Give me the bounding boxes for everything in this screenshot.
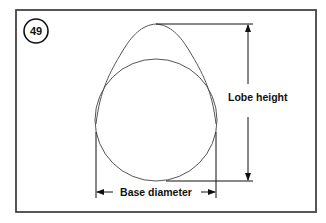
figure-number: 49 (30, 25, 42, 37)
lobe-height-dimension: Lobe height (156, 24, 288, 181)
cam-lobe-diagram: 49 Lobe height Base diameter (0, 0, 326, 223)
base-diameter-label: Base diameter (120, 186, 192, 198)
figure-frame (16, 10, 316, 212)
base-circle (95, 59, 217, 181)
lobe-height-label: Lobe height (228, 91, 288, 103)
base-diameter-dimension: Base diameter (96, 132, 216, 198)
cam-lobe-profile (96, 24, 216, 124)
figure-number-badge: 49 (24, 19, 48, 43)
